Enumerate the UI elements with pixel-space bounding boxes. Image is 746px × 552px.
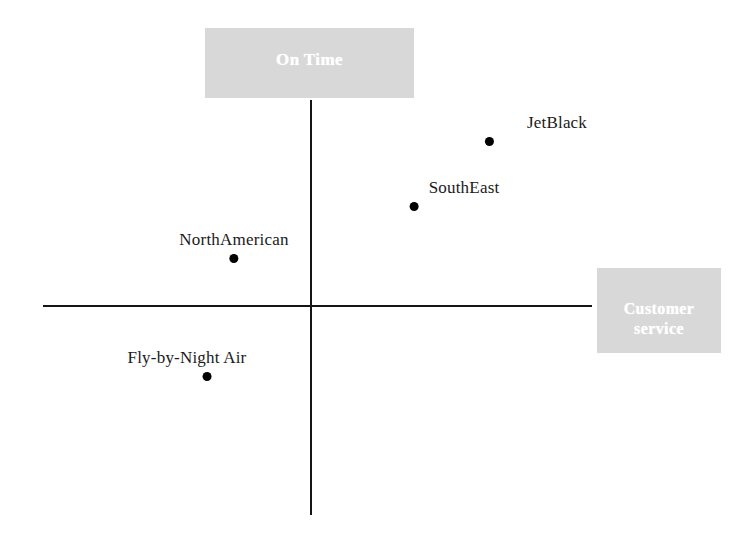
horizontal-axis-customer-service (43, 305, 592, 307)
data-point-northamerican: NorthAmerican (179, 230, 288, 263)
axis-label-on-time: On Time (276, 50, 343, 71)
axis-label-plate-customer-service: Customer service (597, 268, 721, 353)
vertical-axis-on-time (310, 100, 312, 515)
data-point-jetblack: JetBlack (527, 113, 587, 146)
data-point-marker-northamerican (229, 254, 238, 263)
data-point-marker-fly-by-night-air (203, 372, 212, 381)
data-point-label-fly-by-night-air: Fly-by-Night Air (128, 348, 247, 368)
data-point-label-southeast: SouthEast (429, 178, 500, 198)
data-point-label-jetblack: JetBlack (527, 113, 587, 133)
perceptual-map-chart: On Time Customer service JetBlack SouthE… (0, 0, 746, 552)
data-point-marker-southeast (410, 202, 419, 211)
data-point-label-northamerican: NorthAmerican (179, 230, 288, 250)
axis-label-plate-on-time: On Time (205, 28, 414, 98)
data-point-fly-by-night-air: Fly-by-Night Air (128, 348, 247, 381)
data-point-southeast: SouthEast (429, 178, 500, 211)
axis-label-customer-line2: service (634, 319, 684, 339)
data-point-marker-jetblack (485, 137, 494, 146)
axis-label-customer-line1: Customer (624, 299, 695, 319)
